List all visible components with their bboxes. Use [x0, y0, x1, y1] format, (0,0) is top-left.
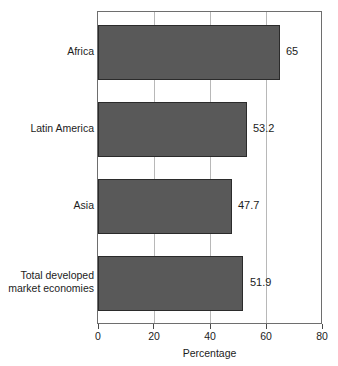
category-label-latin-america: Latin America	[0, 122, 94, 135]
bar-asia[interactable]	[98, 179, 232, 234]
plot-area	[97, 11, 322, 324]
category-label-line: Africa	[0, 45, 94, 58]
category-label-total-developed-market-economies: Total developed market economies	[0, 269, 94, 294]
bar-latin-america[interactable]	[98, 102, 247, 157]
category-label-line: Latin America	[0, 122, 94, 135]
xtick-label-20: 20	[134, 330, 174, 342]
bar-chart-figure: Africa Latin America Asia Total develope…	[0, 0, 338, 366]
xtick-mark-60	[266, 324, 267, 329]
xtick-mark-80	[322, 324, 323, 329]
category-label-asia: Asia	[0, 199, 94, 212]
xtick-label-60: 60	[246, 330, 286, 342]
x-axis-title: Percentage	[97, 347, 322, 359]
value-label-latin-america: 53.2	[253, 122, 274, 134]
category-label-africa: Africa	[0, 45, 94, 58]
chart-title	[200, 0, 330, 2]
xtick-mark-0	[98, 324, 99, 329]
value-label-total-developed-market-economies: 51.9	[250, 276, 271, 288]
bar-africa[interactable]	[98, 25, 280, 80]
bar-total-developed-market-economies[interactable]	[98, 256, 243, 311]
value-label-asia: 47.7	[238, 199, 259, 211]
xtick-mark-20	[153, 324, 154, 329]
category-label-line: Total developed	[0, 269, 94, 282]
xtick-label-0: 0	[78, 330, 118, 342]
category-label-line: Asia	[0, 199, 94, 212]
category-label-line: market economies	[0, 282, 94, 295]
xtick-label-40: 40	[190, 330, 230, 342]
value-label-africa: 65	[286, 45, 298, 57]
xtick-mark-40	[210, 324, 211, 329]
xtick-label-80: 80	[302, 330, 338, 342]
